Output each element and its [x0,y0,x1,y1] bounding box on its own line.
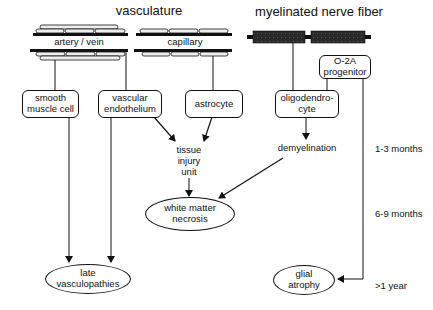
nerve-fiber-illustration [247,31,371,43]
glial-atrophy-node: glialatrophy [273,265,335,295]
demyelination-label: demyelination [276,143,338,154]
astrocyte-box: astrocyte [185,90,243,118]
tissue-injury-unit-label: tissue injury unit [168,145,210,178]
artery-vein-label: artery / vein [44,37,114,48]
timeline-6-9-months: 6-9 months [375,208,423,219]
late-vasculopathies-node: latevasculopathies [45,264,131,294]
nerve-fiber-heading: myelinated nerve fiber [254,5,384,20]
timeline-over-1-year: >1 year [375,280,407,291]
timeline-1-3-months: 1-3 months [375,143,423,154]
vascular-endothelium-box: vascularendothelium [98,90,162,118]
o2a-progenitor-box: O-2Aprogenitor [319,55,371,79]
vasculature-heading: vasculature [104,4,194,19]
capillary-label: capillary [160,37,210,48]
oligodendrocyte-box: oligodendro-cyte [275,90,339,118]
white-matter-necrosis-node: white matternecrosis [145,197,235,231]
smooth-muscle-cell-box: smoothmuscle cell [22,90,79,118]
